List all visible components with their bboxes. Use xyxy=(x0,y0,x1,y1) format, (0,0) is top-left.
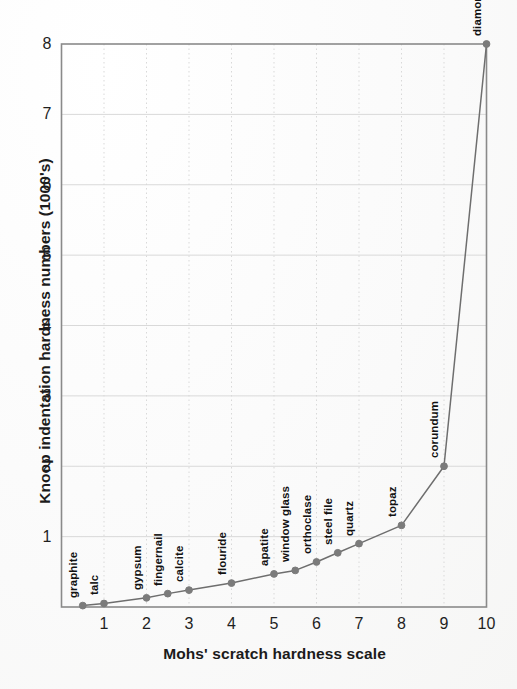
y-tick-label: 6 xyxy=(18,177,52,193)
x-tick-label: 5 xyxy=(257,616,291,632)
data-point-label: talc xyxy=(88,575,100,595)
y-tick-label: 2 xyxy=(18,458,52,474)
data-point-label: corundum xyxy=(428,401,440,458)
y-tick-label: 3 xyxy=(18,388,52,404)
y-tick-label: 5 xyxy=(18,247,52,263)
data-point-label: topaz xyxy=(386,487,398,518)
data-point-label: diamond xyxy=(471,0,483,36)
data-point-label: steel file xyxy=(322,498,334,545)
x-tick-label: 7 xyxy=(342,616,376,632)
x-tick-label: 2 xyxy=(130,616,164,632)
x-tick-label: 3 xyxy=(172,616,206,632)
data-point-label: orthoclase xyxy=(301,495,313,554)
data-point-label: fingernail xyxy=(152,533,164,586)
data-point-label: apatite xyxy=(258,528,270,566)
data-point-label: graphite xyxy=(67,551,79,597)
data-point-label: gypsum xyxy=(131,545,143,590)
data-point-label: calcite xyxy=(173,546,185,583)
chart-page: Knoop indentation hardness numbers (1000… xyxy=(0,0,517,689)
x-axis-title: Mohs' scratch hardness scale xyxy=(62,645,487,663)
data-point-label: flouride xyxy=(216,532,228,575)
data-point-label: quartz xyxy=(343,501,355,536)
x-tick-label: 8 xyxy=(385,616,419,632)
y-tick-label: 7 xyxy=(18,106,52,122)
x-tick-label: 1 xyxy=(87,616,121,632)
x-tick-label: 9 xyxy=(427,616,461,632)
y-tick-label: 4 xyxy=(18,318,52,334)
x-tick-label: 10 xyxy=(470,616,504,632)
y-tick-label: 8 xyxy=(18,36,52,52)
x-tick-label: 4 xyxy=(215,616,249,632)
x-tick-label: 6 xyxy=(300,616,334,632)
data-point-label: window glass xyxy=(279,486,291,562)
y-tick-label: 1 xyxy=(18,529,52,545)
grid-layer xyxy=(62,44,487,607)
